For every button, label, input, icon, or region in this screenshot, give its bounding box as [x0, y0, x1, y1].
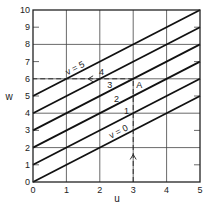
y-tick-label: 7 [25, 57, 30, 67]
curve-label-v1: 1 [124, 106, 129, 116]
y-tick-label: 9 [25, 22, 30, 32]
x-axis-label: u [114, 193, 120, 204]
chart: 012345 012345678910 v = 01234v = 5 u w A [0, 0, 209, 210]
series-line-v1 [33, 79, 200, 165]
y-tick-label: 3 [25, 125, 30, 135]
y-tick-label: 4 [25, 108, 30, 118]
y-tick-labels: 012345678910 [20, 5, 30, 187]
curve-label-v2: 2 [114, 94, 119, 104]
series-line-v5 [33, 10, 200, 96]
curve-label-v3: 3 [107, 80, 112, 90]
series-line-v0 [33, 96, 200, 182]
x-tick-label: 1 [64, 185, 69, 195]
y-tick-label: 8 [25, 39, 30, 49]
y-tick-label: 2 [25, 143, 30, 153]
x-tick-label: 0 [30, 185, 35, 195]
y-axis-label: w [4, 91, 13, 102]
series-line-v3 [33, 44, 200, 130]
x-tick-label: 4 [164, 185, 169, 195]
y-tick-label: 1 [25, 160, 30, 170]
y-tick-label: 5 [25, 91, 30, 101]
y-tick-label: 0 [25, 177, 30, 187]
curve-labels: v = 01234v = 5 [64, 59, 130, 141]
curve-label-v4: 4 [99, 67, 104, 77]
y-tick-label: 6 [25, 74, 30, 84]
x-tick-label: 2 [97, 185, 102, 195]
x-tick-label: 5 [197, 185, 202, 195]
y-tick-label: 10 [20, 5, 30, 15]
point-a-label: A [136, 80, 142, 90]
x-tick-label: 3 [131, 185, 136, 195]
